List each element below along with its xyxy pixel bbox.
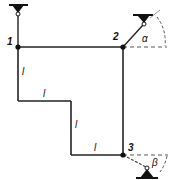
node-1 bbox=[15, 44, 20, 49]
node-label-3: 3 bbox=[128, 142, 134, 153]
member-label-l-2: l bbox=[43, 88, 46, 99]
member-label-l-1: l bbox=[22, 66, 25, 77]
support-node-3 bbox=[123, 155, 168, 178]
member-label-l-4: l bbox=[94, 142, 97, 153]
frame-diagram: 1 2 3 l l l l α β bbox=[0, 0, 174, 180]
node-2 bbox=[120, 44, 125, 49]
node-label-1: 1 bbox=[7, 36, 13, 47]
angle-label-alpha: α bbox=[142, 33, 148, 44]
frame-members bbox=[18, 47, 123, 155]
angle-label-beta: β bbox=[151, 157, 158, 168]
node-3 bbox=[120, 152, 125, 157]
node-label-2: 2 bbox=[112, 31, 119, 42]
member-label-l-3: l bbox=[75, 119, 78, 130]
